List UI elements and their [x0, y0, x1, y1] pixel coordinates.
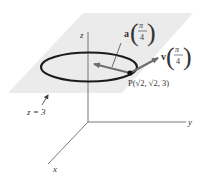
diagram-canvas: z y x z = 3 P(√2, √2, 3) a ( π 4 ) v ( π…: [0, 0, 208, 179]
point-label: P(√2, √2, 3): [128, 78, 169, 88]
x-axis-label: x: [52, 164, 57, 174]
point-p: [127, 70, 132, 75]
plane-label: z = 3: [26, 107, 46, 117]
velocity-arg-denominator: 4: [176, 57, 180, 66]
velocity-arg-numerator: π: [175, 45, 180, 54]
acceleration-symbol: a: [124, 28, 129, 39]
velocity-open-paren: (: [166, 42, 175, 71]
y-axis-label: y: [187, 117, 192, 127]
velocity-label: v ( π 4 ): [161, 42, 192, 71]
acceleration-open-paren: (: [130, 18, 139, 47]
velocity-close-paren: ): [183, 42, 192, 71]
x-axis: [48, 122, 88, 164]
acceleration-close-paren: ): [147, 18, 156, 47]
z-axis-label: z: [79, 30, 84, 40]
plane-label-arrow: [42, 95, 48, 105]
acceleration-arg-denominator: 4: [140, 33, 144, 42]
